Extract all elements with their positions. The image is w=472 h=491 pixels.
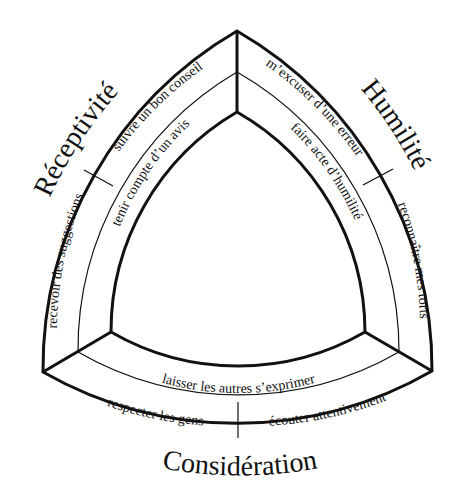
item-respecter-gens: respecter les gens: [106, 394, 204, 428]
category-label-receptivite: Réceptivité: [27, 75, 124, 200]
category-label-humilite: Humilité: [356, 73, 437, 175]
item-ecouter-attentivement: écouter attentivement: [268, 389, 388, 429]
item-suivre-conseil: suivre un bon conseil: [109, 58, 205, 153]
reuleaux-diagram: Réceptivité Humilité Considération suivr…: [0, 0, 472, 491]
item-reconnaitre-torts: reconnaître mes torts: [395, 200, 432, 319]
spoke-left: [43, 332, 111, 372]
category-label-consideration: Considération: [161, 444, 319, 482]
middle-boundary: [78, 72, 399, 395]
item-laisser-exprimer: laisser les autres s’exprimer: [161, 371, 317, 396]
inner-boundary: [111, 112, 365, 366]
